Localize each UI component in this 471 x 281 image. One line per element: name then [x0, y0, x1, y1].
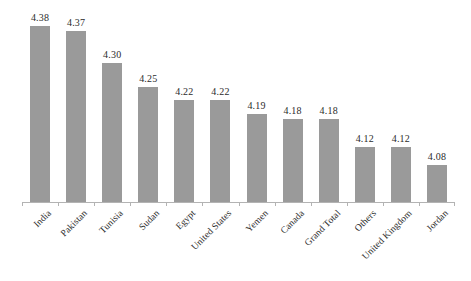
bar-value-label: 4.22: [166, 86, 202, 97]
bar-value-label: 4.38: [22, 12, 58, 23]
bar-group: 4.18: [275, 8, 311, 202]
category-label: Others: [352, 208, 377, 233]
axis-tick: [239, 202, 240, 206]
category-label: Yemen: [243, 208, 269, 234]
axis-tick: [454, 202, 455, 206]
bar-group: 4.30: [94, 8, 130, 202]
bar-value-label: 4.18: [311, 105, 347, 116]
axis-tick: [275, 202, 276, 206]
bar-value-label: 4.30: [94, 49, 130, 60]
bar-value-label: 4.08: [419, 151, 455, 162]
bar-group: 4.38: [22, 8, 58, 202]
bar-value-label: 4.22: [202, 86, 238, 97]
bar-value-label: 4.12: [347, 133, 383, 144]
bar: [283, 119, 303, 202]
category-label: Jordan: [425, 208, 450, 233]
bar-group: 4.18: [311, 8, 347, 202]
bar-group: 4.25: [130, 8, 166, 202]
bar-group: 4.22: [166, 8, 202, 202]
bars-layer: 4.384.374.304.254.224.224.194.184.184.12…: [22, 8, 455, 202]
category-label: Grand Total: [302, 208, 342, 248]
bar-value-label: 4.19: [239, 100, 275, 111]
category-label: India: [32, 208, 53, 229]
axis-tick: [311, 202, 312, 206]
axis-tick: [58, 202, 59, 206]
bar: [355, 147, 375, 202]
x-axis-labels: IndiaPakistanTunisiaSudanEgyptUnited Sta…: [22, 208, 455, 278]
axis-tick: [166, 202, 167, 206]
bar-chart: 4.384.374.304.254.224.224.194.184.184.12…: [0, 0, 471, 281]
axis-tick: [347, 202, 348, 206]
bar-group: 4.19: [239, 8, 275, 202]
bar-group: 4.12: [383, 8, 419, 202]
bar: [210, 100, 230, 202]
axis-tick: [383, 202, 384, 206]
bar-group: 4.22: [202, 8, 238, 202]
bar-group: 4.12: [347, 8, 383, 202]
bar-group: 4.37: [58, 8, 94, 202]
category-label: Canada: [278, 208, 306, 236]
axis-tick: [22, 202, 23, 206]
bar: [319, 119, 339, 202]
category-label: Pakistan: [59, 208, 89, 238]
bar: [247, 114, 267, 202]
bar: [391, 147, 411, 202]
bar: [102, 63, 122, 202]
axis-tick: [419, 202, 420, 206]
bar: [174, 100, 194, 202]
bar-value-label: 4.37: [58, 17, 94, 28]
axis-tick: [130, 202, 131, 206]
bar: [30, 26, 50, 202]
category-label: Sudan: [137, 208, 161, 232]
category-label: Tunisia: [98, 208, 125, 235]
bar: [66, 31, 86, 202]
bar-value-label: 4.18: [275, 105, 311, 116]
axis-tick: [94, 202, 95, 206]
x-axis-ticks: [22, 202, 455, 207]
bar: [427, 165, 447, 202]
axis-tick: [202, 202, 203, 206]
bar: [138, 87, 158, 202]
bar-value-label: 4.25: [130, 73, 166, 84]
bar-group: 4.08: [419, 8, 455, 202]
category-label: Egypt: [174, 208, 197, 231]
bar-value-label: 4.12: [383, 133, 419, 144]
